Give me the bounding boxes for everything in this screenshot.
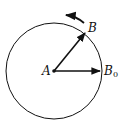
label-b0: B: [103, 64, 113, 78]
label-b: B: [87, 21, 97, 35]
vector-a-b: [54, 33, 85, 71]
label-a: A: [41, 64, 51, 78]
center-point-a: [52, 69, 56, 73]
rotation-diagram: A B B 0: [0, 0, 124, 131]
rotation-arrow-icon: [66, 15, 84, 23]
label-b0-subscript: 0: [113, 70, 118, 79]
